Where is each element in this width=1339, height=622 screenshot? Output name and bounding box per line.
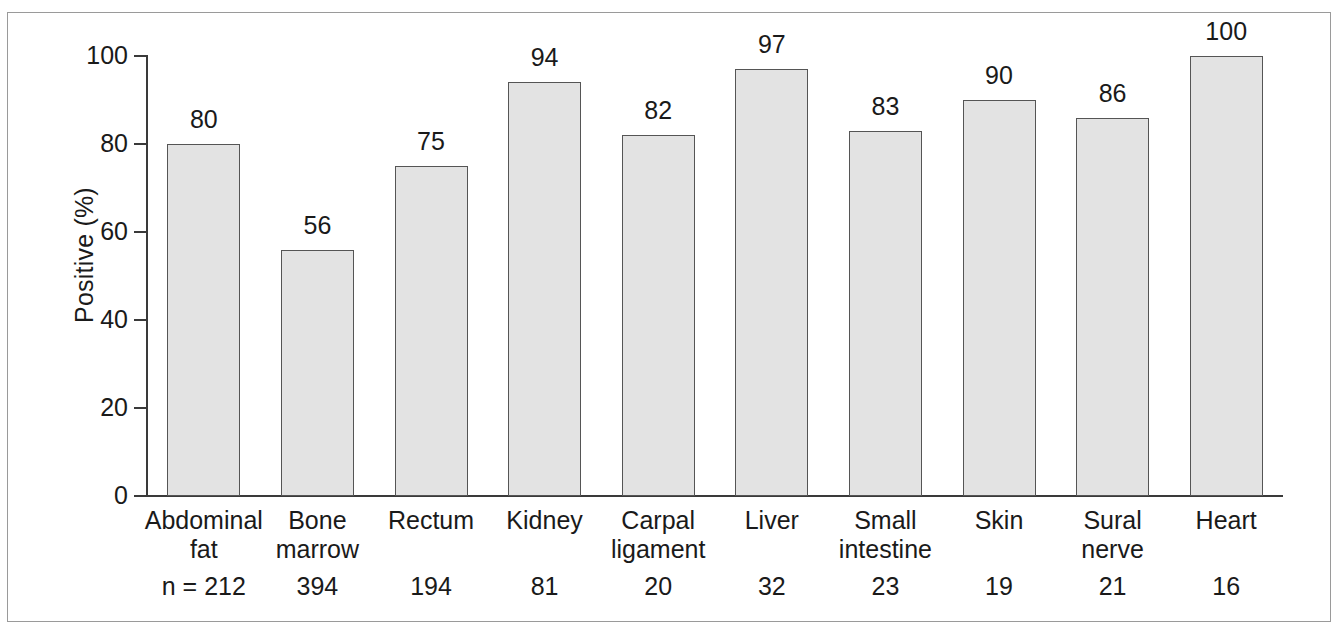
bar-value-label: 90	[939, 63, 1059, 88]
bar[interactable]	[735, 69, 808, 496]
sample-size-label: 16	[1146, 572, 1306, 601]
bar[interactable]	[622, 135, 695, 496]
bar-value-label: 82	[598, 98, 718, 123]
bar[interactable]	[963, 100, 1036, 496]
bar-value-label: 86	[1053, 81, 1173, 106]
bar[interactable]	[1076, 118, 1149, 496]
bar-value-label: 75	[371, 129, 491, 154]
bar[interactable]	[1190, 56, 1263, 496]
bar[interactable]	[281, 250, 354, 496]
bar-value-label: 100	[1166, 19, 1286, 44]
bar[interactable]	[508, 82, 581, 496]
bar-value-label: 94	[485, 45, 605, 70]
bar[interactable]	[167, 144, 240, 496]
bar-value-label: 83	[825, 94, 945, 119]
x-axis-category-block: Heart16	[1146, 506, 1306, 601]
bar-value-label: 97	[712, 32, 832, 57]
bar-value-label: 80	[144, 107, 264, 132]
bar[interactable]	[849, 131, 922, 496]
bar[interactable]	[395, 166, 468, 496]
bar-value-label: 56	[257, 213, 377, 238]
category-label-line1: Heart	[1146, 506, 1306, 535]
